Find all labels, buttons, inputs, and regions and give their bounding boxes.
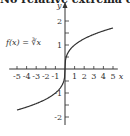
y-tick-label: 2: [57, 17, 62, 26]
x-tick-label: 2: [82, 72, 87, 81]
x-axis-label: x: [119, 72, 124, 81]
x-tick-label: 3: [91, 72, 96, 81]
x-tick-label: -2: [42, 72, 50, 81]
y-axis-label: y: [56, 1, 62, 10]
y-tick-label: -2: [54, 113, 62, 122]
function-label: f(x) = ∛x: [6, 38, 41, 47]
x-tick-label: -5: [13, 72, 21, 81]
x-tick-label: -1: [52, 72, 60, 81]
x-tick-label: 1: [72, 72, 77, 81]
x-tick-label: -4: [23, 72, 31, 81]
x-tick-label: -3: [32, 72, 40, 81]
chart-plot: xy-5-4-3-2-112345-2-112: [0, 0, 130, 136]
x-tick-label: 5: [110, 72, 115, 81]
y-axis-arrow-icon: [63, 2, 68, 8]
x-tick-label: 4: [101, 72, 106, 81]
y-tick-label: 1: [57, 41, 62, 50]
